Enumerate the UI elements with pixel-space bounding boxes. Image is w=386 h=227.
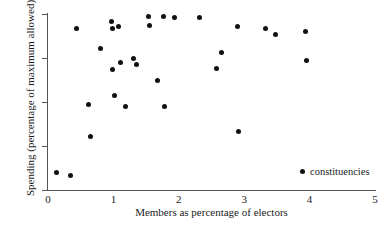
scatter-plot-figure: 60708090100 012345 Members as percentage… — [0, 0, 386, 227]
data-point — [235, 24, 240, 29]
data-point — [110, 67, 115, 72]
y-axis-title: Spending (percentage of maximum allowed) — [24, 0, 36, 198]
data-point — [131, 56, 136, 61]
data-point — [273, 32, 278, 37]
data-point — [172, 15, 177, 20]
data-point — [88, 134, 93, 139]
data-point — [146, 14, 151, 19]
y-tick-mark — [42, 190, 48, 191]
x-tick-label: 1 — [98, 193, 128, 205]
legend-marker-icon — [300, 169, 305, 174]
data-point — [303, 29, 308, 34]
data-point — [134, 62, 139, 67]
data-point — [197, 15, 202, 20]
x-tick-label: 2 — [164, 193, 194, 205]
data-point — [54, 170, 59, 175]
data-point — [147, 23, 152, 28]
x-tick-label: 0 — [33, 193, 63, 205]
x-tick-label: 5 — [360, 193, 386, 205]
data-point — [110, 26, 115, 31]
data-point — [86, 102, 91, 107]
data-point — [155, 78, 160, 83]
data-point — [214, 66, 219, 71]
legend-label: constituencies — [310, 166, 369, 177]
x-axis-title: Members as percentage of electors — [48, 206, 375, 219]
data-point — [162, 104, 167, 109]
data-point — [236, 129, 241, 134]
data-point — [112, 93, 117, 98]
plot-data-area — [48, 14, 375, 190]
data-point — [118, 60, 123, 65]
data-point — [219, 50, 224, 55]
x-tick-label: 4 — [295, 193, 325, 205]
data-point — [263, 26, 268, 31]
x-axis-line — [47, 190, 376, 191]
data-point — [68, 173, 73, 178]
data-point — [161, 14, 166, 19]
data-point — [109, 19, 114, 24]
data-point — [116, 24, 121, 29]
data-point — [74, 26, 79, 31]
data-point — [123, 104, 128, 109]
data-point — [98, 46, 103, 51]
data-point — [304, 58, 309, 63]
x-tick-label: 3 — [229, 193, 259, 205]
legend: constituencies — [300, 166, 369, 177]
